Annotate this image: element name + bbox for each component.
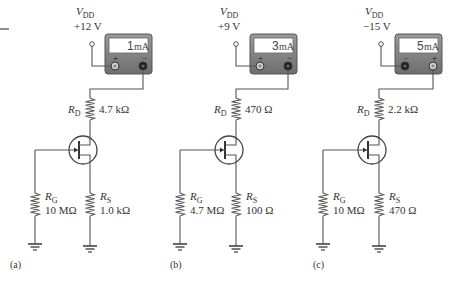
circuit-a: VDD+12 V1mA+−RD4.7 kΩRG10 MΩRS1.0 kΩ(a): [10, 5, 152, 271]
circuit-caption: (b): [170, 259, 182, 271]
circuit-caption: (c): [313, 259, 324, 271]
vdd-label-sub: DD: [372, 11, 384, 20]
vdd-terminal: [379, 42, 384, 47]
rg-label: RG: [44, 190, 58, 205]
rg-label: RG: [332, 190, 346, 205]
resistor-rd: [375, 98, 384, 120]
vdd-terminal: [90, 42, 95, 47]
vdd-value: −15 V: [363, 20, 391, 32]
ammeter-left-polarity: −: [403, 53, 408, 63]
ammeter-left-jack-center: [403, 64, 406, 67]
resistor-rd: [86, 98, 95, 120]
ammeter-reading: 5: [417, 39, 424, 53]
ammeter-reading: 1: [127, 39, 134, 53]
resistor-rs: [86, 193, 95, 216]
ammeter-right-jack-center: [141, 64, 144, 67]
ammeter-unit: mA: [424, 41, 440, 52]
vdd-label-sub: DD: [83, 11, 95, 20]
vdd-label: VDD: [365, 5, 384, 20]
rg-value: 10 MΩ: [45, 204, 77, 216]
rs-value: 100 Ω: [246, 204, 273, 216]
rg-label: RG: [189, 190, 203, 205]
rd-label: RD: [356, 103, 370, 118]
resistor-rs: [375, 193, 384, 216]
rd-label: RD: [67, 103, 81, 118]
vdd-value: +12 V: [74, 20, 102, 32]
resistor-rg: [176, 193, 185, 216]
rs-label: RS: [99, 190, 111, 205]
circuit-c: VDD−15 V5mA−+RD2.2 kΩRG10 MΩRS470 Ω(c): [313, 5, 442, 271]
rd-value: 4.7 kΩ: [99, 103, 129, 115]
jfet-gate-arrow: [74, 148, 78, 153]
vdd-label-sub: DD: [227, 11, 239, 20]
rg-value: 10 MΩ: [333, 204, 365, 216]
jfet-gate-arrow: [220, 148, 224, 153]
rg-value: 4.7 MΩ: [190, 204, 224, 216]
jfet-drain-lead: [225, 140, 236, 145]
resistor-rd: [232, 98, 241, 120]
vdd-label: VDD: [76, 5, 95, 20]
resistor-rs: [232, 193, 241, 216]
rs-value: 470 Ω: [389, 204, 416, 216]
vdd-value: +9 V: [218, 20, 240, 32]
rd-value: 470 Ω: [245, 103, 272, 115]
ammeter-left-polarity: +: [113, 53, 118, 63]
circuit-figure: VDD+12 V1mA+−RD4.7 kΩRG10 MΩRS1.0 kΩ(a)V…: [0, 0, 461, 283]
ammeter-reading: 3: [272, 39, 279, 53]
vdd-label: VDD: [220, 5, 239, 20]
circuit-caption: (a): [10, 259, 21, 271]
ammeter-right-jack-center: [431, 64, 434, 67]
ammeter-left-jack-center: [258, 64, 261, 67]
ammeter-right-jack-center: [286, 64, 289, 67]
jfet-gate-arrow: [363, 148, 367, 153]
rs-label: RS: [245, 190, 257, 205]
circuit-b: VDD+9 V3mA+−RD470 ΩRG4.7 MΩRS100 Ω(b): [170, 5, 297, 271]
ammeter-left-polarity: +: [258, 53, 263, 63]
resistor-rg: [31, 193, 40, 216]
rs-label: RS: [388, 190, 400, 205]
rd-label-sub: D: [221, 109, 227, 118]
ammeter-left-jack-center: [113, 64, 116, 67]
vdd-terminal: [234, 42, 239, 47]
jfet-drain-lead: [79, 140, 90, 145]
rd-label: RD: [213, 103, 227, 118]
rd-label-sub: D: [75, 109, 81, 118]
jfet-drain-lead: [368, 140, 379, 145]
ammeter-right-polarity: −: [142, 53, 147, 63]
ammeter-unit: mA: [279, 41, 295, 52]
ammeter-right-polarity: −: [287, 53, 292, 63]
rs-value: 1.0 kΩ: [100, 204, 130, 216]
rd-value: 2.2 kΩ: [388, 103, 418, 115]
rd-label-sub: D: [364, 109, 370, 118]
ammeter-right-polarity: +: [432, 53, 437, 63]
ammeter-unit: mA: [134, 41, 150, 52]
resistor-rg: [319, 193, 328, 216]
